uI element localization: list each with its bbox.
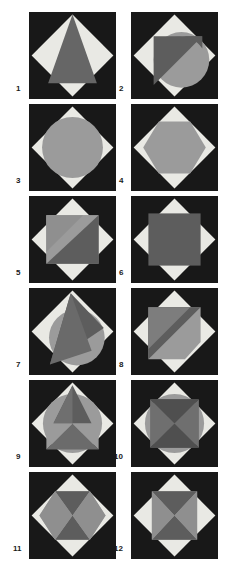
figure-10-canvas — [131, 380, 218, 467]
figure-8-canvas — [131, 288, 218, 375]
panel-label-5: 5 — [16, 268, 20, 277]
figure-panel-6 — [131, 196, 218, 283]
figure-panel-7 — [29, 288, 116, 375]
figure-1-canvas — [29, 12, 116, 99]
figure-4-canvas — [131, 104, 218, 191]
panel-label-8: 8 — [119, 360, 123, 369]
figure-11-canvas — [29, 472, 116, 559]
figure-7-canvas — [29, 288, 116, 375]
figure-panel-3 — [29, 104, 116, 191]
figure-panel-8 — [131, 288, 218, 375]
panel-label-2: 2 — [119, 84, 123, 93]
figure-plate: 1 2 3 4 5 6 7 8 9 10 11 12 — [0, 0, 229, 573]
figure-2-canvas — [131, 12, 218, 99]
figure-panel-11 — [29, 472, 116, 559]
circle-shape — [42, 117, 103, 178]
panel-label-3: 3 — [16, 176, 20, 185]
figure-panel-12 — [131, 472, 218, 559]
figure-panel-5 — [29, 196, 116, 283]
square-shape — [148, 213, 200, 265]
figure-panel-10 — [131, 380, 218, 467]
panel-label-4: 4 — [119, 176, 123, 185]
panel-label-10: 10 — [114, 452, 123, 461]
figure-5-canvas — [29, 196, 116, 283]
panel-label-11: 11 — [13, 544, 21, 553]
figure-panel-9 — [29, 380, 116, 467]
figure-panel-4 — [131, 104, 218, 191]
figure-9-canvas — [29, 380, 116, 467]
figure-6-canvas — [131, 196, 218, 283]
figure-panel-2 — [131, 12, 218, 99]
figure-3-canvas — [29, 104, 116, 191]
figure-12-canvas — [131, 472, 218, 559]
panel-label-1: 1 — [16, 84, 20, 93]
panel-label-12: 12 — [114, 544, 123, 553]
panel-label-9: 9 — [16, 452, 20, 461]
panel-label-6: 6 — [119, 268, 123, 277]
panel-label-7: 7 — [16, 360, 20, 369]
figure-panel-1 — [29, 12, 116, 99]
